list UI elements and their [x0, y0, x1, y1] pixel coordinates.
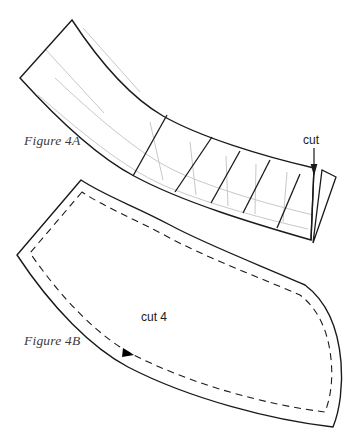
cut-arrowhead-icon	[311, 164, 318, 176]
notch-marker-icon	[122, 348, 134, 357]
figure-4a-label: Figure 4A	[24, 133, 80, 149]
figure-4a-group	[20, 20, 336, 243]
gridline-upper-guide	[38, 95, 308, 229]
figure-4a-outline	[20, 20, 314, 240]
gridline-cross-1	[46, 50, 104, 113]
pattern-diagram	[0, 0, 354, 441]
gridline-cross-5	[226, 156, 228, 206]
gridline-lower-guide	[55, 78, 313, 215]
segment-divider-4	[243, 160, 270, 213]
figure-4b-group	[17, 180, 342, 427]
cut-annotation-label: cut	[303, 133, 319, 147]
cut-wedge	[313, 170, 336, 243]
cut-count-annotation-label: cut 4	[141, 310, 167, 324]
cut-leader-arrow	[311, 148, 318, 176]
figure-4b-label: Figure 4B	[24, 333, 80, 349]
gridline-cross-7	[283, 172, 287, 222]
gridline-cross-2	[83, 28, 140, 92]
gridline-cross-3	[150, 122, 163, 180]
figure-4a-gridlines	[38, 28, 313, 229]
segment-divider-5	[277, 174, 300, 228]
segment-divider-3	[211, 151, 240, 203]
pattern-figure-page: Figure 4A Figure 4B cut cut 4	[0, 0, 354, 441]
figure-4b-seam-line	[30, 192, 332, 412]
segment-divider-6-cut-edge	[311, 168, 314, 240]
figure-4b-outline	[17, 180, 342, 427]
